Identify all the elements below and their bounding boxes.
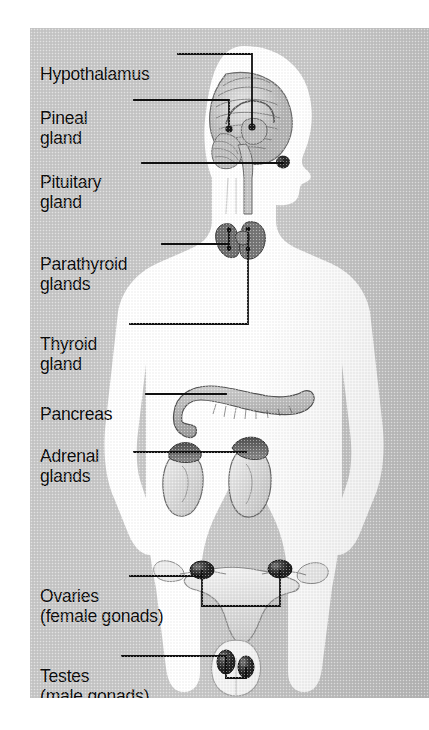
pituitary-gland	[276, 156, 290, 169]
label-adrenal-subtext: glands	[40, 466, 99, 486]
label-ovaries: Ovaries (female gonads)	[40, 566, 163, 646]
label-pituitary-subtext: gland	[40, 192, 101, 212]
label-pineal-subtext: gland	[40, 128, 87, 148]
label-pancreas: Pancreas	[40, 384, 112, 424]
label-thyroid-gland: Thyroid gland	[40, 314, 97, 394]
pineal-gland	[225, 125, 232, 132]
label-adrenal-glands: Adrenal glands	[40, 426, 99, 506]
label-hypothalamus: Hypothalamus	[40, 44, 149, 84]
label-ovaries-text: Ovaries	[40, 586, 99, 606]
label-parathyroid-glands: Parathyroid glands	[40, 234, 127, 314]
label-parathyroid-subtext: glands	[40, 274, 127, 294]
label-pituitary-gland: Pituitary gland	[40, 152, 101, 232]
label-testes: Testes (male gonads)	[40, 646, 149, 698]
endocrine-system-figure: Hypothalamus Pineal gland Pituitary glan…	[0, 0, 429, 730]
label-thyroid-subtext: gland	[40, 354, 97, 374]
label-hypothalamus-text: Hypothalamus	[40, 64, 149, 84]
label-pituitary-text: Pituitary	[40, 172, 101, 192]
label-pineal-text: Pineal	[40, 108, 87, 128]
diagram-plate: Hypothalamus Pineal gland Pituitary glan…	[30, 28, 429, 698]
label-parathyroid-text: Parathyroid	[40, 254, 127, 274]
label-testes-text: Testes	[40, 666, 89, 686]
label-adrenal-text: Adrenal	[40, 446, 99, 466]
hypothalamus-gland	[248, 123, 255, 130]
label-pancreas-text: Pancreas	[40, 404, 112, 424]
label-testes-subtext: (male gonads)	[40, 686, 149, 698]
label-ovaries-subtext: (female gonads)	[40, 606, 163, 626]
label-thyroid-text: Thyroid	[40, 334, 97, 354]
